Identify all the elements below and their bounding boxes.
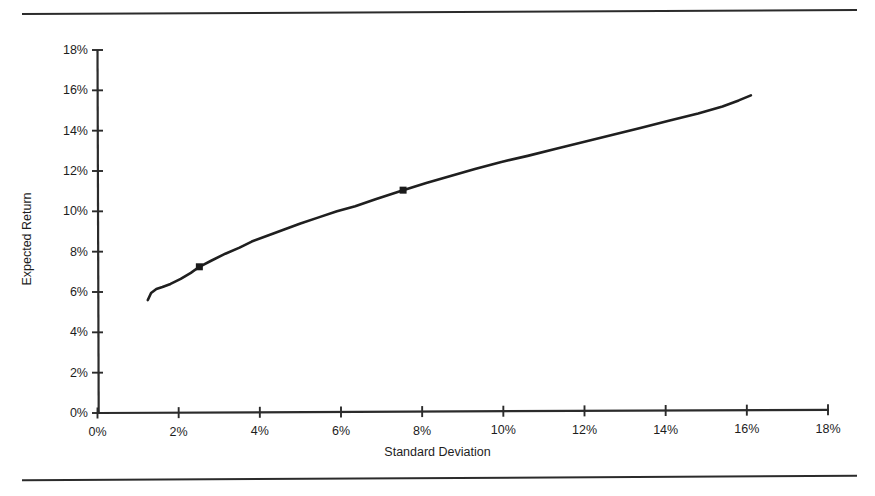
x-tick-label: 16%	[734, 423, 759, 436]
y-tick-label: 4%	[36, 326, 88, 339]
series-line-0	[148, 95, 751, 300]
y-tick-label: 0%	[36, 407, 88, 420]
y-tick-label: 12%	[36, 165, 88, 178]
x-tick-label: 0%	[88, 426, 106, 439]
y-axis-line	[98, 50, 99, 413]
x-tick-label: 14%	[653, 424, 678, 437]
y-tick-label: 14%	[36, 124, 88, 137]
y-tick-label: 6%	[36, 286, 88, 299]
x-tick-label: 4%	[251, 425, 269, 438]
portfolio-marker-1	[196, 263, 203, 270]
y-tick-label: 10%	[36, 205, 88, 218]
x-tick-label: 10%	[491, 424, 516, 437]
chart-page: 0%2%4%6%8%10%12%14%16%18%0%2%4%6%8%10%12…	[0, 0, 875, 496]
y-tick-label: 2%	[36, 366, 88, 379]
plot-area: 0%2%4%6%8%10%12%14%16%18%0%2%4%6%8%10%12…	[0, 0, 875, 496]
y-tick-label: 18%	[36, 44, 88, 57]
x-tick-label: 8%	[413, 425, 431, 438]
x-axis-line	[98, 410, 830, 413]
x-tick-label: 18%	[815, 423, 840, 436]
y-tick-label: 8%	[36, 245, 88, 258]
portfolio-marker-2	[400, 187, 407, 194]
y-axis-title: Expected Return	[20, 179, 34, 299]
x-axis-title: Standard Deviation	[0, 445, 875, 459]
x-tick-label: 6%	[332, 425, 350, 438]
x-tick-label: 2%	[170, 426, 188, 439]
y-tick-label: 16%	[36, 84, 88, 97]
x-tick-label: 12%	[572, 424, 597, 437]
